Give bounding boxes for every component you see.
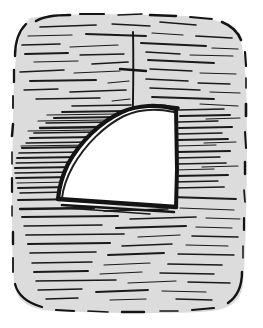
- sail-top-right-corner: [160, 106, 178, 108]
- sail-right-edge: [176, 108, 177, 207]
- sketch-artboard: Hand-drawn ink sketch of a sail-like qua…: [0, 0, 263, 328]
- ink-sketch-canvas: [0, 0, 263, 328]
